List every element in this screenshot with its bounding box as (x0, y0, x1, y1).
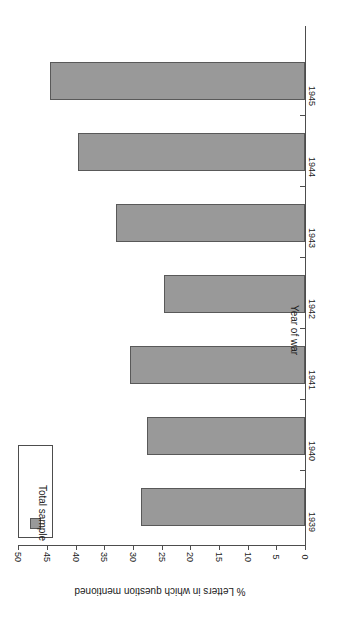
category-label-1941: 1941 (307, 370, 317, 404)
category-axis-line (305, 26, 306, 545)
category-tick-6 (300, 115, 305, 116)
plot-area: 0 5 10 15 20 25 30 35 40 45 50 1939 1940… (0, 0, 356, 634)
category-label-1943: 1943 (307, 228, 317, 262)
category-label-1944: 1944 (307, 157, 317, 191)
category-tick-3 (300, 328, 305, 329)
value-tick-label-15: 15 (214, 545, 224, 569)
category-label-1942: 1942 (307, 299, 317, 333)
bar-1939 (141, 488, 305, 526)
category-axis-title: Year of war (289, 270, 300, 390)
value-tick-label-35: 35 (99, 545, 109, 569)
value-tick-label-50: 50 (13, 545, 23, 569)
category-label-1939: 1939 (307, 512, 317, 546)
category-tick-2 (300, 399, 305, 400)
bar-1943 (116, 204, 305, 242)
value-tick-label-20: 20 (185, 545, 195, 569)
value-axis-title: % Letters in which question mentioned (40, 586, 280, 597)
value-tick-label-45: 45 (42, 545, 52, 569)
category-label-1940: 1940 (307, 441, 317, 475)
bar-1944 (78, 133, 305, 171)
value-tick-label-40: 40 (71, 545, 81, 569)
value-tick-label-0: 0 (300, 545, 310, 569)
bar-1941 (130, 346, 305, 384)
value-tick-label-10: 10 (243, 545, 253, 569)
category-label-1945: 1945 (307, 86, 317, 120)
bar-1940 (147, 417, 305, 455)
chart-figure: 0 5 10 15 20 25 30 35 40 45 50 1939 1940… (0, 0, 356, 634)
value-tick-label-5: 5 (271, 545, 281, 569)
bar-1942 (164, 275, 305, 313)
bar-1945 (50, 62, 305, 100)
legend-label-total-sample: Total sample (37, 480, 48, 546)
category-tick-4 (300, 257, 305, 258)
value-tick-label-25: 25 (157, 545, 167, 569)
chart-legend: Total sample (18, 445, 53, 538)
value-tick-label-30: 30 (128, 545, 138, 569)
category-tick-5 (300, 186, 305, 187)
category-tick-1 (300, 470, 305, 471)
